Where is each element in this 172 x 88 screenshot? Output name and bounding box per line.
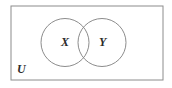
- universe-label: U: [17, 63, 26, 75]
- set-label-x: X: [61, 36, 69, 48]
- set-label-y: Y: [99, 36, 106, 48]
- venn-diagram-figure: X Y U: [0, 0, 172, 88]
- universe-rectangle: [11, 6, 163, 80]
